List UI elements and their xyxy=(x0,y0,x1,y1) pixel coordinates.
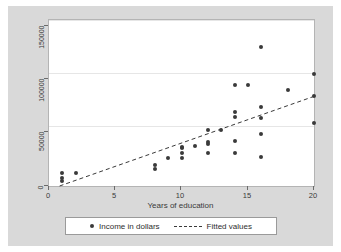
x-tick-label-0: 0 xyxy=(46,191,50,200)
data-point xyxy=(180,151,184,155)
data-point xyxy=(153,167,157,171)
data-point xyxy=(259,155,263,159)
data-point xyxy=(312,121,316,125)
plot-area xyxy=(48,19,315,187)
data-point xyxy=(180,146,184,150)
x-tick-0 xyxy=(48,186,49,190)
data-point xyxy=(60,179,64,183)
legend-label-scatter: Income in dollars xyxy=(99,222,159,231)
legend-entry-fit: Fitted values xyxy=(174,222,252,231)
legend-entry-scatter: Income in dollars xyxy=(90,222,159,231)
data-point xyxy=(259,45,263,49)
y-tick-label-0: 0 xyxy=(38,186,45,190)
x-tick-1 xyxy=(114,186,115,190)
x-tick-label-2: 10 xyxy=(176,191,184,200)
scatter-points-layer xyxy=(49,20,314,186)
y-tick-label-1: 50000 xyxy=(38,132,45,151)
x-tick-3 xyxy=(247,186,248,190)
x-axis-title: Years of education xyxy=(48,201,313,210)
data-point xyxy=(312,72,316,76)
data-point xyxy=(233,83,237,87)
legend: Income in dollars Fitted values xyxy=(65,217,277,235)
data-point xyxy=(206,128,210,132)
legend-label-fit: Fitted values xyxy=(207,222,252,231)
x-tick-2 xyxy=(180,186,181,190)
y-tick-label-3: 150000 xyxy=(38,26,45,49)
dashed-line-icon xyxy=(174,226,202,227)
scatter-marker-icon xyxy=(90,224,94,228)
data-point xyxy=(193,144,197,148)
x-tick-label-3: 15 xyxy=(243,191,251,200)
x-tick-label-4: 20 xyxy=(309,191,317,200)
x-tick-4 xyxy=(313,186,314,190)
data-point xyxy=(219,128,223,132)
data-point xyxy=(259,116,263,120)
data-point xyxy=(233,139,237,143)
data-point xyxy=(206,142,210,146)
figure-inner: 0 50000 100000 150000 0 5 10 xyxy=(8,6,333,246)
data-point xyxy=(180,156,184,160)
data-point xyxy=(233,151,237,155)
y-tick-label-2: 100000 xyxy=(38,79,45,102)
data-point xyxy=(233,110,237,114)
data-point xyxy=(60,171,64,175)
data-point xyxy=(153,163,157,167)
data-point xyxy=(286,88,290,92)
data-point xyxy=(312,94,316,98)
data-point xyxy=(246,83,250,87)
screenshot-root: 0 50000 100000 150000 0 5 10 xyxy=(0,0,341,252)
data-point xyxy=(233,115,237,119)
data-point xyxy=(259,105,263,109)
data-point xyxy=(74,171,78,175)
data-point xyxy=(259,132,263,136)
data-point xyxy=(206,151,210,155)
data-point xyxy=(166,156,170,160)
x-tick-label-1: 5 xyxy=(112,191,116,200)
figure-panel: 0 50000 100000 150000 0 5 10 xyxy=(8,6,333,246)
